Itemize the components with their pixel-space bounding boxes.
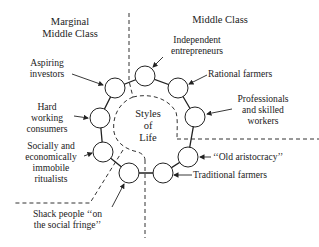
arrow-ritualists bbox=[84, 153, 92, 156]
node-hard-working-consumers bbox=[90, 108, 110, 128]
node-traditional-farmers bbox=[153, 163, 173, 183]
arrow-shack-people bbox=[112, 184, 124, 207]
top-divider-dashed-line bbox=[129, 13, 133, 97]
middle-class-header: Middle Class bbox=[180, 14, 260, 26]
arrow-hard-working-consumers bbox=[74, 116, 88, 118]
marginal-middle-class-header: Marginal Middle Class bbox=[38, 16, 102, 40]
node-old-aristocracy bbox=[178, 147, 198, 167]
node-ritualists bbox=[93, 142, 113, 162]
label-hard-working-consumers: Hard working consumers bbox=[20, 101, 74, 134]
label-aspiring-investors: Aspiring investors bbox=[22, 57, 72, 79]
arrow-rational-farmers bbox=[189, 75, 207, 84]
arrow-aspiring-investors bbox=[72, 74, 103, 85]
label-shack-people: Shack people ‘‘on the social fringe’’ bbox=[20, 208, 115, 230]
node-aspiring-investors bbox=[105, 78, 125, 98]
node-rational-farmers bbox=[168, 78, 188, 98]
label-professionals: Professionals and skilled workers bbox=[228, 93, 298, 126]
center-label-styles-of-life: Styles of Life bbox=[128, 108, 168, 144]
label-rational-farmers: Rational farmers bbox=[208, 68, 272, 79]
arrow-independent-entrepreneurs bbox=[153, 57, 163, 67]
node-independent-entrepreneurs bbox=[135, 66, 155, 86]
label-traditional-farmers: Traditional farmers bbox=[193, 169, 267, 180]
label-ritualists: Socially and economically immobile ritua… bbox=[18, 140, 84, 184]
label-independent-entrepreneurs: Independent entrepreneurs bbox=[162, 34, 232, 56]
node-professionals bbox=[185, 107, 205, 127]
label-old-aristocracy: ‘‘Old aristocracy’’ bbox=[213, 151, 283, 162]
node-shack-people bbox=[119, 163, 139, 183]
